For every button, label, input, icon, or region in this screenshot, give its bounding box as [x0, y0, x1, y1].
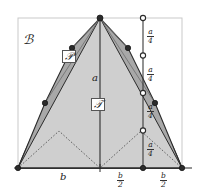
label-half-base-left: b 2 [117, 172, 124, 190]
quarter-height-numerator-1: a [147, 28, 154, 36]
label-triangle-T: 𝒯 [91, 98, 105, 111]
label-quarter-height-3: a 4 [147, 103, 154, 121]
label-base-b: b [60, 172, 66, 182]
label-quarter-height-2: a 4 [147, 66, 154, 84]
figure-canvas [0, 0, 206, 194]
label-quarter-height-4: a 4 [147, 141, 154, 159]
half-base-denominator: 2 [117, 180, 124, 189]
quarter-height-denominator-2: 4 [147, 74, 154, 83]
quarter-height-numerator-3: a [147, 103, 154, 111]
quarter-height-denominator-4: 4 [147, 149, 154, 158]
label-half-base-right: b 2 [160, 172, 167, 190]
quarter-axis-node-base [140, 165, 145, 170]
half-base-numerator: b [117, 172, 124, 180]
label-quarter-height-1: a 4 [147, 28, 154, 46]
quarter-height-denominator-3: 4 [147, 111, 154, 120]
label-height-a: a [92, 73, 98, 83]
label-polygon-P: 𝒫 [62, 50, 76, 63]
quarter-height-numerator-4: a [147, 141, 154, 149]
label-region-B: ℬ [23, 33, 33, 46]
half-base-numerator-2: b [160, 172, 167, 180]
quarter-height-denominator-1: 4 [147, 36, 154, 45]
half-base-denominator-2: 2 [160, 180, 167, 189]
figure-parabolic-segment: ℬ 𝒫 𝒯 a b b 2 b 2 a 4 a 4 a 4 [0, 0, 206, 194]
quarter-height-numerator-2: a [147, 66, 154, 74]
